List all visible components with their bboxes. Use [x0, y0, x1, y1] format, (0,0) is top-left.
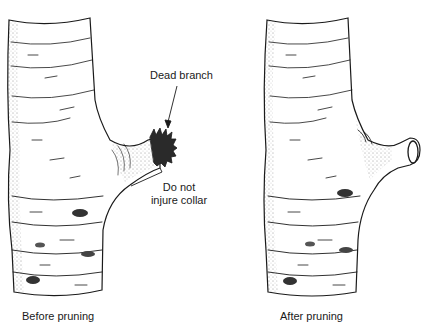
collar-label-line1: Do not	[150, 181, 208, 194]
dead-branch-label: Dead branch	[150, 69, 213, 82]
pruning-illustration	[0, 0, 424, 327]
caption-after: After pruning	[280, 310, 343, 323]
collar-label-line2: injure collar	[150, 194, 208, 207]
trunk-after	[264, 18, 420, 296]
trunk-before	[8, 18, 177, 296]
caption-before: Before pruning	[22, 310, 94, 323]
dead-branch-arrow	[165, 86, 177, 128]
